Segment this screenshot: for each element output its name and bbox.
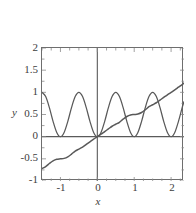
left-edge-ticks <box>42 48 46 181</box>
y-axis-tick-labels: 2 1.5 1 0.5 0 -0.5 -1 <box>0 0 38 213</box>
plot-area <box>41 47 183 180</box>
y-tick-label-1.5: 1.5 <box>24 64 38 75</box>
x-tick-label-2: 2 <box>165 182 179 193</box>
x-tick-label-0: 0 <box>91 182 105 193</box>
x-tick-label-1: 1 <box>128 182 142 193</box>
x-tick-label--1: -1 <box>54 182 68 193</box>
top-edge-ticks <box>42 48 180 52</box>
y-tick-label-0.5: 0.5 <box>24 108 38 119</box>
y-tick-label--1: -1 <box>29 174 38 185</box>
plot-canvas <box>42 48 184 181</box>
axis-lines <box>42 48 184 181</box>
y-tick-label-0: 0 <box>33 130 39 141</box>
y-tick-label-2: 2 <box>33 42 39 53</box>
x-axis-title: x <box>0 196 196 207</box>
y-tick-label-1: 1 <box>33 86 39 97</box>
y-tick-label--0.5: -0.5 <box>21 152 38 163</box>
y-axis-title: y <box>12 107 17 118</box>
chart-figure: 2 1.5 1 0.5 0 -0.5 -1 y -1 0 1 2 x <box>0 0 196 213</box>
